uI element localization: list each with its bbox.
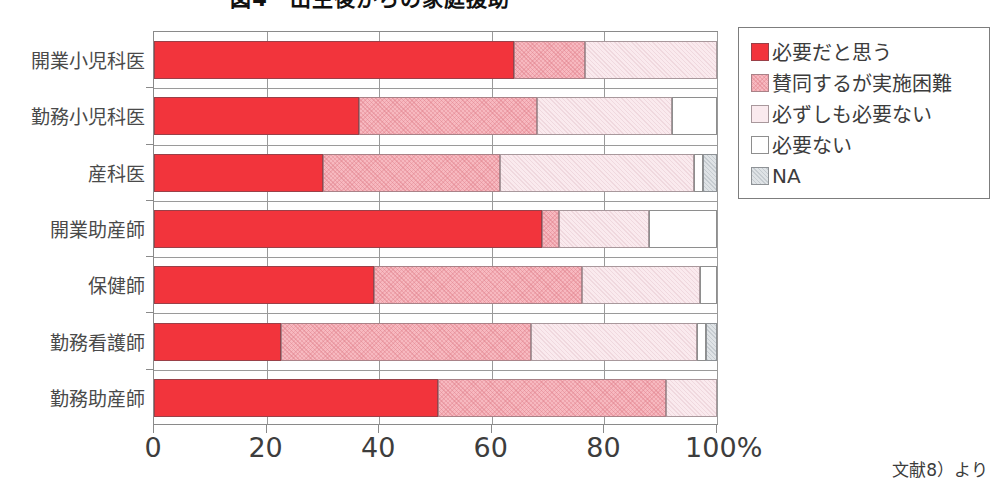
- bar-row[interactable]: [154, 323, 717, 361]
- y-axis-label: 保健師: [0, 271, 145, 298]
- source-footnote: 文献8）より: [892, 456, 988, 481]
- bar-segment[interactable]: [154, 41, 514, 79]
- bar-segment[interactable]: [542, 210, 559, 248]
- y-axis-tick: [146, 369, 153, 370]
- row-separator: [154, 257, 717, 258]
- legend-item-label: 賛同するが実施困難: [772, 68, 952, 97]
- legend-swatch-not-necessarily-icon: [751, 105, 769, 123]
- bar-segment[interactable]: [697, 323, 705, 361]
- y-axis-tick: [146, 87, 153, 88]
- bar-segment[interactable]: [559, 210, 649, 248]
- bar-segment[interactable]: [281, 323, 532, 361]
- x-axis-label: 60: [474, 432, 508, 463]
- bar-segment[interactable]: [666, 379, 717, 417]
- bar-segment[interactable]: [154, 154, 323, 192]
- chart-title: 図4 出生後からの家庭援助: [0, 0, 740, 12]
- y-axis-label: 勤務小児科医: [0, 102, 145, 129]
- bar-segment[interactable]: [514, 41, 584, 79]
- y-axis-label: 勤務助産師: [0, 384, 145, 411]
- bar-row[interactable]: [154, 266, 717, 304]
- bar-segment[interactable]: [154, 210, 542, 248]
- legend-item-label: NA: [772, 164, 801, 188]
- y-axis-tick: [146, 144, 153, 145]
- legend-item-label: 必要ない: [772, 130, 852, 159]
- bar-segment[interactable]: [154, 323, 281, 361]
- bar-segment[interactable]: [154, 266, 374, 304]
- bar-row[interactable]: [154, 379, 717, 417]
- bar-row[interactable]: [154, 41, 717, 79]
- bar-segment[interactable]: [500, 154, 694, 192]
- row-separator: [154, 88, 717, 89]
- row-separator: [154, 145, 717, 146]
- legend-item[interactable]: 必要ない: [751, 129, 989, 160]
- bar-segment[interactable]: [672, 97, 717, 135]
- bar-segment[interactable]: [531, 323, 697, 361]
- bar-row[interactable]: [154, 97, 717, 135]
- legend-item[interactable]: NA: [751, 160, 989, 191]
- bar-segment[interactable]: [154, 379, 438, 417]
- bar-segment[interactable]: [585, 41, 717, 79]
- bar-segment[interactable]: [649, 210, 717, 248]
- row-separator: [154, 201, 717, 202]
- y-axis-tick: [146, 312, 153, 313]
- gridline-100: [717, 32, 718, 424]
- bar-segment[interactable]: [700, 266, 717, 304]
- chart-legend: 必要だと思う賛同するが実施困難必ずしも必要ない必要ないNA: [738, 27, 990, 199]
- y-axis-label: 産科医: [0, 159, 145, 186]
- plot-area: [153, 31, 718, 425]
- legend-item-label: 必ずしも必要ない: [772, 99, 932, 128]
- y-axis-tick: [146, 200, 153, 201]
- y-axis-label: 開業小児科医: [0, 46, 145, 73]
- bar-segment[interactable]: [694, 154, 702, 192]
- bar-segment[interactable]: [706, 323, 717, 361]
- legend-item[interactable]: 必ずしも必要ない: [751, 98, 989, 129]
- y-axis-label: 勤務看護師: [0, 328, 145, 355]
- x-axis-label: 100%: [685, 432, 762, 463]
- x-axis-labels: 020406080100%: [0, 432, 1002, 466]
- bar-segment[interactable]: [537, 97, 672, 135]
- bar-segment[interactable]: [703, 154, 717, 192]
- bar-row[interactable]: [154, 154, 717, 192]
- legend-swatch-na-icon: [751, 167, 769, 185]
- bar-segment[interactable]: [582, 266, 700, 304]
- bar-row[interactable]: [154, 210, 717, 248]
- x-axis-label: 20: [248, 432, 282, 463]
- x-axis-label: 80: [586, 432, 620, 463]
- legend-item-label: 必要だと思う: [772, 37, 892, 66]
- bar-segment[interactable]: [438, 379, 666, 417]
- legend-item[interactable]: 必要だと思う: [751, 36, 989, 67]
- legend-swatch-not-needed-icon: [751, 136, 769, 154]
- bar-segment[interactable]: [374, 266, 582, 304]
- legend-swatch-agree-hard-icon: [751, 74, 769, 92]
- bar-segment[interactable]: [323, 154, 500, 192]
- x-axis-label: 40: [361, 432, 395, 463]
- y-axis-label: 開業助産師: [0, 215, 145, 242]
- bar-segment[interactable]: [359, 97, 536, 135]
- y-axis-labels: 開業小児科医勤務小児科医産科医開業助産師保健師勤務看護師勤務助産師: [0, 31, 148, 425]
- bar-segment[interactable]: [154, 97, 359, 135]
- x-axis-label: 0: [144, 432, 161, 463]
- legend-swatch-required-icon: [751, 43, 769, 61]
- legend-item[interactable]: 賛同するが実施困難: [751, 67, 989, 98]
- y-axis-tick: [146, 256, 153, 257]
- row-separator: [154, 313, 717, 314]
- row-separator: [154, 370, 717, 371]
